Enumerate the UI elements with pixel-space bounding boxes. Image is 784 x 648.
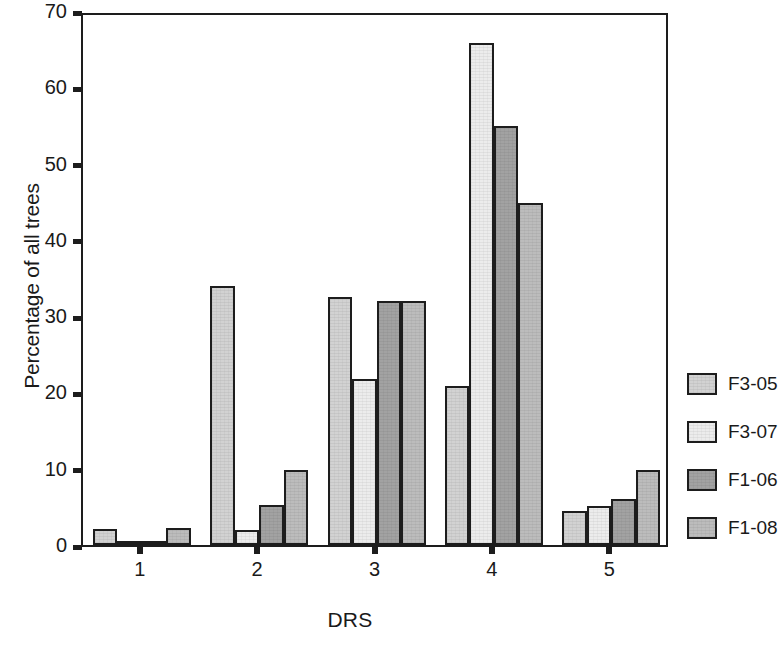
y-axis-tick-label: 10 bbox=[9, 458, 67, 481]
legend-label: F3-07 bbox=[728, 421, 778, 443]
y-axis-tick-label: 30 bbox=[9, 305, 67, 328]
y-axis-tick-label: 40 bbox=[9, 229, 67, 252]
bar-f3-05-drs-3 bbox=[328, 297, 353, 545]
legend-swatch-f3-05 bbox=[687, 373, 717, 395]
bar-group bbox=[210, 15, 308, 545]
bar-f1-06-drs-2 bbox=[259, 505, 284, 545]
plot-area bbox=[81, 13, 668, 547]
legend-label: F1-08 bbox=[728, 517, 778, 539]
bar-f3-05-drs-2 bbox=[210, 286, 235, 545]
bar-group bbox=[328, 15, 426, 545]
bar-f1-08-drs-4 bbox=[518, 203, 543, 545]
legend-label: F3-05 bbox=[728, 373, 778, 395]
y-axis-tick-label: 60 bbox=[9, 76, 67, 99]
bars-layer bbox=[83, 15, 666, 545]
bar-f3-07-drs-3 bbox=[352, 379, 377, 545]
bar-f1-08-drs-3 bbox=[401, 301, 426, 545]
x-axis-tick-label: 1 bbox=[120, 558, 160, 581]
x-axis-tick bbox=[137, 545, 143, 554]
bar-f1-08-drs-2 bbox=[284, 470, 309, 545]
x-axis-tick-label: 5 bbox=[589, 558, 629, 581]
bar-f1-06-drs-5 bbox=[611, 499, 636, 545]
legend-item-f1-06: F1-06 bbox=[687, 467, 778, 493]
x-axis-tick-label: 3 bbox=[355, 558, 395, 581]
bar-f3-07-drs-4 bbox=[469, 43, 494, 545]
x-axis-tick-label: 2 bbox=[237, 558, 277, 581]
legend-swatch-f3-07 bbox=[687, 421, 717, 443]
y-axis-tick-label: 0 bbox=[9, 534, 67, 557]
y-axis-tick-label: 70 bbox=[9, 0, 67, 23]
legend-item-f1-08: F1-08 bbox=[687, 515, 778, 541]
y-axis-tick-label: 50 bbox=[9, 153, 67, 176]
bar-f1-06-drs-4 bbox=[494, 126, 519, 545]
bar-f3-05-drs-4 bbox=[445, 386, 470, 545]
y-axis-tick-label: 20 bbox=[9, 381, 67, 404]
bar-f1-08-drs-1 bbox=[166, 528, 191, 545]
bar-f1-06-drs-3 bbox=[377, 301, 402, 545]
bar-chart-figure: Percentage of all trees 010203040506070 … bbox=[0, 0, 784, 648]
bar-group bbox=[445, 15, 543, 545]
bar-f3-07-drs-2 bbox=[235, 530, 260, 545]
legend-item-f3-07: F3-07 bbox=[687, 419, 778, 445]
bar-f3-07-drs-5 bbox=[587, 506, 612, 545]
legend-item-f3-05: F3-05 bbox=[687, 371, 778, 397]
x-axis-title: DRS bbox=[0, 608, 700, 632]
legend-swatch-f1-08 bbox=[687, 517, 717, 539]
legend-swatch-f1-06 bbox=[687, 469, 717, 491]
bar-group bbox=[93, 15, 191, 545]
x-axis-tick bbox=[606, 545, 612, 554]
bar-f1-08-drs-5 bbox=[636, 470, 661, 545]
x-axis-tick bbox=[254, 545, 260, 554]
x-axis-tick-label: 4 bbox=[472, 558, 512, 581]
x-axis-tick bbox=[372, 545, 378, 554]
legend-label: F1-06 bbox=[728, 469, 778, 491]
bar-f1-06-drs-1 bbox=[142, 541, 167, 545]
bar-group bbox=[562, 15, 660, 545]
bar-f3-05-drs-5 bbox=[562, 511, 587, 545]
x-axis-tick bbox=[489, 545, 495, 554]
bar-f3-07-drs-1 bbox=[117, 541, 142, 545]
bar-f3-05-drs-1 bbox=[93, 529, 118, 545]
